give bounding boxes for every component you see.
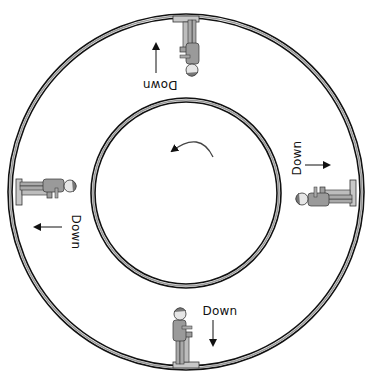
rotating-station-diagram: Down Down Down Down xyxy=(0,0,373,382)
down-label-left: Down xyxy=(69,215,83,250)
person-on-scale-right xyxy=(296,180,356,206)
person-on-scale-top xyxy=(173,16,199,76)
down-label-top: Down xyxy=(143,78,178,92)
person-on-scale-left xyxy=(16,179,76,205)
rotation-arrow-icon xyxy=(172,142,213,157)
person-on-scale-bottom xyxy=(173,308,199,368)
inner-ring xyxy=(91,98,281,288)
down-label-right: Down xyxy=(290,141,304,176)
down-label-bottom: Down xyxy=(203,304,238,318)
